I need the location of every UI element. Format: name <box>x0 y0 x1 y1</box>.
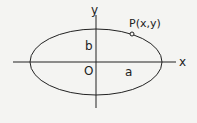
point-p-label: P(x,y) <box>129 17 161 30</box>
x-axis-label: x <box>179 55 186 69</box>
semi-minor-label: b <box>85 39 93 53</box>
ellipse-diagram: x y O a b P(x,y) <box>0 0 197 123</box>
semi-major-label: a <box>125 65 132 79</box>
y-axis-label: y <box>91 3 98 17</box>
point-p-marker <box>130 32 134 36</box>
diagram-svg: x y O a b P(x,y) <box>0 0 197 123</box>
origin-label: O <box>84 64 93 78</box>
